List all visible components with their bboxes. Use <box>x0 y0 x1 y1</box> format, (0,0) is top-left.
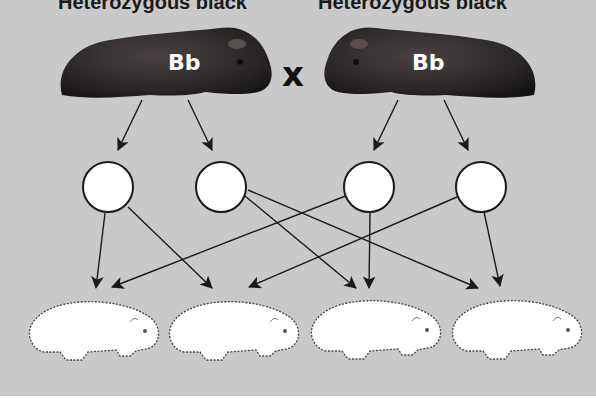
gametes <box>83 162 506 212</box>
right-parent-genotype: Bb <box>412 50 445 75</box>
offspring-guinea-pig <box>29 302 158 360</box>
offspring-guinea-pig <box>311 301 440 359</box>
offspring <box>29 301 581 360</box>
right-parent-guinea-pig: Bb <box>324 27 535 97</box>
diagram-panel: Heterozygous black Heterozygous black Bb… <box>0 0 596 396</box>
gamete-circle <box>344 162 394 212</box>
left-parent-guinea-pig: Bb <box>61 27 272 97</box>
gamete-to-offspring-arrows <box>96 190 500 288</box>
gamete-circle <box>83 162 133 212</box>
offspring-guinea-pig <box>169 302 298 360</box>
left-parent-genotype: Bb <box>168 50 201 75</box>
gamete-circle <box>456 162 506 212</box>
punnett-cross-diagram: Bb x Bb <box>0 0 596 396</box>
offspring-guinea-pig <box>452 301 581 359</box>
gamete-circle <box>196 162 246 212</box>
cross-symbol: x <box>282 54 304 94</box>
parent-to-gamete-arrows <box>118 100 468 150</box>
